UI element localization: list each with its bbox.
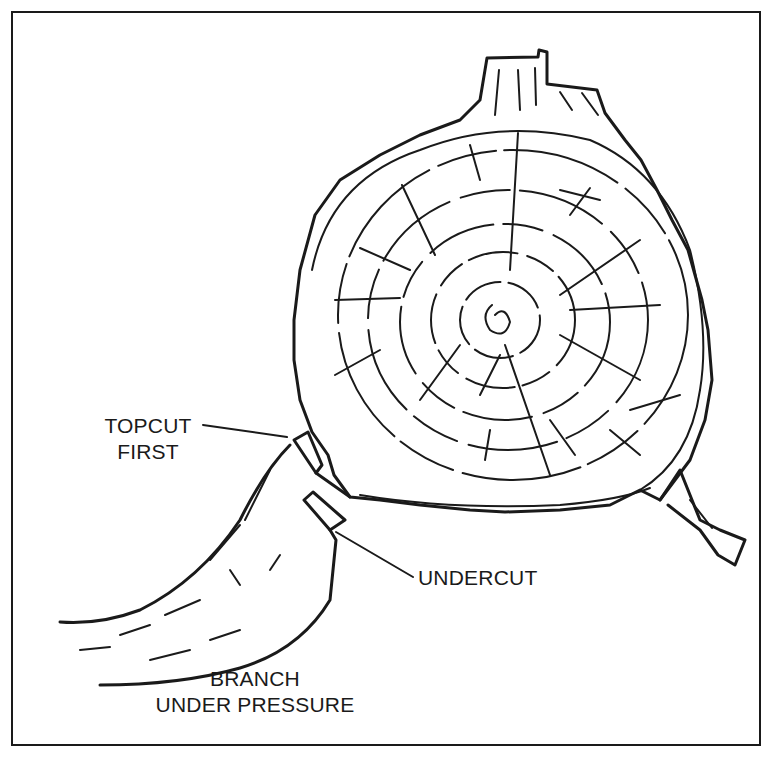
topcut-label-line2: FIRST (88, 439, 208, 465)
topcut-label-line1: TOPCUT (88, 413, 208, 439)
branch (60, 432, 350, 685)
branch-label: BRANCH UNDER PRESSURE (150, 666, 360, 718)
growth-rings (338, 150, 688, 480)
trunk-cross-section-drawing (0, 0, 772, 759)
undercut-label: UNDERCUT (418, 565, 537, 591)
branch-label-line1: BRANCH (150, 666, 360, 692)
radial-cracks (335, 133, 680, 475)
branch-label-line2: UNDER PRESSURE (150, 692, 360, 718)
trunk-outline (294, 50, 712, 512)
topcut-label: TOPCUT FIRST (88, 413, 208, 465)
